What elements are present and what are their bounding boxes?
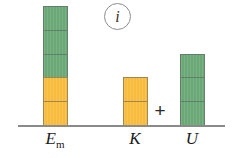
- axis-label-potential-energy: U: [167, 130, 217, 150]
- bar-potential-energy: [180, 52, 205, 126]
- panel-label-badge: i: [104, 3, 131, 30]
- bar-segment-green: [43, 6, 68, 31]
- bar-segment-green: [180, 54, 205, 79]
- bar-segment-green: [180, 101, 205, 126]
- axis-label-main: E: [46, 129, 56, 148]
- bar-segment-green: [180, 77, 205, 102]
- bar-segment-orange: [123, 101, 148, 126]
- bar-segment-orange: [123, 77, 148, 102]
- axis-baseline: [18, 125, 225, 127]
- bar-total-mechanical-energy: [43, 2, 68, 126]
- energy-bar-chart-figure: i + Em K U: [0, 0, 243, 158]
- bar-segment-green: [43, 54, 68, 79]
- axis-label-total-mechanical-energy: Em: [30, 130, 80, 150]
- axis-label-subscript: m: [56, 138, 65, 150]
- panel-label-text: i: [115, 8, 119, 26]
- bar-segment-orange: [43, 101, 68, 126]
- plus-operator-text: +: [154, 100, 165, 121]
- plus-operator: +: [152, 101, 168, 120]
- bar-segment-green: [43, 30, 68, 55]
- axis-label-main: U: [186, 129, 198, 148]
- axis-label-main: K: [129, 129, 140, 148]
- bar-kinetic-energy: [123, 76, 148, 126]
- bar-segment-orange: [43, 77, 68, 102]
- axis-label-kinetic-energy: K: [110, 130, 160, 150]
